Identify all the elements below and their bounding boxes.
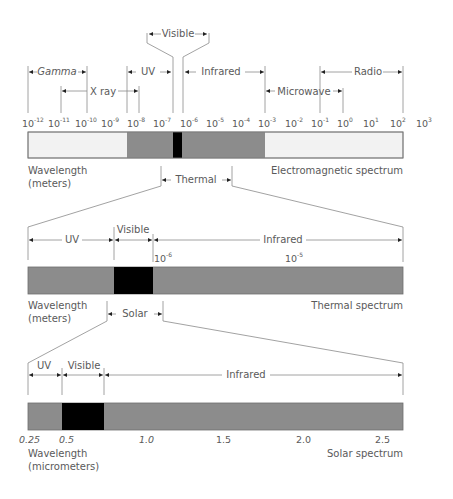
solar-tick: 1.0 — [139, 434, 154, 445]
em-tick: 100 — [337, 116, 353, 129]
em-radio-bracket: Radio — [320, 66, 403, 113]
thermal-spectrum-bar — [28, 267, 403, 294]
em-tick: 10-11 — [48, 116, 70, 129]
solar-spectrum-section: UV Visible Infrared 0.25 0.5 1.0 1.5 2.0… — [19, 360, 403, 472]
em-visible-label: Visible — [162, 28, 195, 39]
em-axis-label: Wavelength — [28, 165, 87, 176]
em-tick: 10-1 — [311, 116, 329, 129]
em-visible-bracket: Visible — [147, 28, 209, 113]
solar-infrared-label: Infrared — [226, 369, 265, 380]
solar-axis-label: Wavelength — [28, 448, 87, 459]
em-tick: 103 — [416, 116, 432, 129]
thermal-tick: 10-6 — [154, 251, 172, 264]
em-microwave-bracket: Microwave — [266, 86, 343, 113]
em-tick: 10-12 — [22, 116, 44, 129]
solar-visible-bracket: Visible — [63, 360, 103, 375]
thermal-tick: 10-5 — [285, 251, 303, 264]
em-xray-label: X ray — [90, 86, 116, 97]
thermal-uv-label: UV — [65, 234, 79, 245]
em-tick: 10-5 — [206, 116, 224, 129]
solar-infrared-bracket: Infrared — [105, 368, 402, 380]
em-tick: 10-6 — [180, 116, 198, 129]
thermal-infrared-bracket: Infrared — [154, 233, 402, 245]
em-tick: 10-8 — [127, 116, 145, 129]
em-tick: 10-4 — [232, 116, 250, 129]
spectrum-diagram: Visible Gamma X ray UV — [0, 0, 453, 499]
solar-spectrum-title: Solar spectrum — [327, 448, 403, 459]
em-tick: 10-9 — [101, 116, 119, 129]
em-spectrum-title: Electromagnetic spectrum — [271, 165, 403, 176]
em-infrared-label: Infrared — [201, 66, 240, 77]
thermal-visible-label: Visible — [117, 224, 150, 235]
em-tick: 10-2 — [285, 116, 303, 129]
em-microwave-label: Microwave — [277, 86, 330, 97]
solar-tick: 2.0 — [296, 434, 311, 445]
thermal-visible-bracket: Visible — [115, 224, 152, 240]
solar-visible-label: Visible — [68, 360, 101, 371]
thermal-spectrum-title: Thermal spectrum — [310, 300, 403, 311]
em-tick: 10-7 — [153, 116, 171, 129]
em-uv-label: UV — [141, 66, 155, 77]
em-gamma-label: Gamma — [37, 66, 77, 77]
em-spectrum-bar — [28, 132, 403, 158]
em-spectrum-section: Visible Gamma X ray UV — [22, 28, 432, 227]
solar-axis-label-unit: (micrometers) — [28, 461, 99, 472]
solar-spectrum-bar — [28, 403, 403, 430]
em-infrared-bracket: Infrared — [185, 66, 265, 113]
solar-tick-labels: 0.25 0.5 1.0 1.5 2.0 2.5 — [19, 434, 390, 445]
solar-tick: 1.5 — [216, 434, 231, 445]
em-tick: 10-10 — [75, 116, 97, 129]
solar-tick: 0.5 — [59, 434, 74, 445]
solar-uv-label: UV — [37, 360, 51, 371]
em-tick: 102 — [390, 116, 406, 129]
solar-uv-bracket: UV — [29, 360, 61, 375]
em-axis-label-unit: (meters) — [28, 178, 71, 189]
thermal-zoom-label: Thermal — [174, 174, 216, 185]
em-radio-label: Radio — [354, 66, 382, 77]
thermal-axis-label: Wavelength — [28, 300, 87, 311]
solar-tick: 2.5 — [375, 434, 390, 445]
em-tick-labels: 10-12 10-11 10-10 10-9 10-8 10-7 10-6 10… — [22, 116, 432, 129]
thermal-axis-label-unit: (meters) — [28, 313, 71, 324]
em-gamma-bracket: Gamma — [28, 66, 87, 113]
thermal-spectrum-section: UV Visible Infrared 10-6 10-5 Wavelength… — [28, 224, 403, 363]
em-tick: 10-3 — [258, 116, 276, 129]
thermal-uv-bracket: UV — [29, 234, 113, 245]
solar-tick: 0.25 — [19, 434, 40, 445]
em-uv-bracket: UV — [127, 66, 171, 113]
thermal-infrared-label: Infrared — [263, 234, 302, 245]
em-tick: 101 — [363, 116, 379, 129]
solar-zoom-label: Solar — [122, 308, 148, 319]
